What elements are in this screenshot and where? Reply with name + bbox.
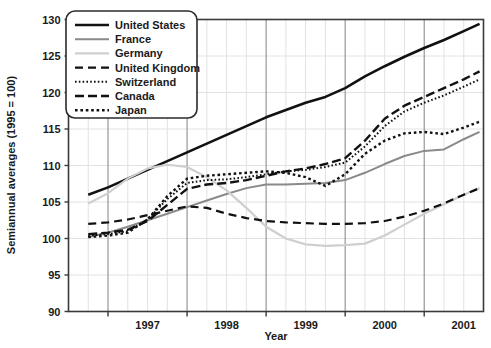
legend-item-label: Canada — [115, 90, 156, 102]
legend: United StatesFranceGermanyUnited Kingdom… — [66, 11, 200, 118]
legend-item-label: Japan — [115, 104, 147, 116]
x-tick-label: 1997 — [135, 319, 159, 331]
y-tick-label: 105 — [42, 196, 60, 208]
legend-item-label: United Kingdom — [115, 62, 200, 74]
y-tick-label: 100 — [42, 233, 60, 245]
y-tick-label: 130 — [42, 14, 60, 26]
x-tick-label: 1999 — [293, 319, 317, 331]
legend-item-label: United States — [115, 19, 185, 31]
chart-container: 9095100105110115120125130 19971998199920… — [0, 0, 491, 348]
legend-item-label: Switzerland — [115, 76, 176, 88]
x-tick-label: 2000 — [372, 319, 396, 331]
x-axis-title: Year — [264, 330, 288, 342]
y-axis-title: Semiannual averages (1995 = 100) — [5, 76, 17, 255]
x-tick-label: 2001 — [451, 319, 475, 331]
y-tick-label: 90 — [48, 306, 60, 318]
y-tick-label: 115 — [43, 123, 61, 135]
y-tick-label: 125 — [42, 50, 60, 62]
x-tick-label: 1998 — [214, 319, 238, 331]
line-chart: 9095100105110115120125130 19971998199920… — [0, 0, 491, 348]
y-tick-label: 95 — [48, 269, 60, 281]
legend-item-label: Germany — [115, 47, 164, 59]
legend-item-label: France — [115, 33, 151, 45]
y-tick-label: 110 — [43, 160, 61, 172]
y-tick-label: 120 — [42, 87, 60, 99]
